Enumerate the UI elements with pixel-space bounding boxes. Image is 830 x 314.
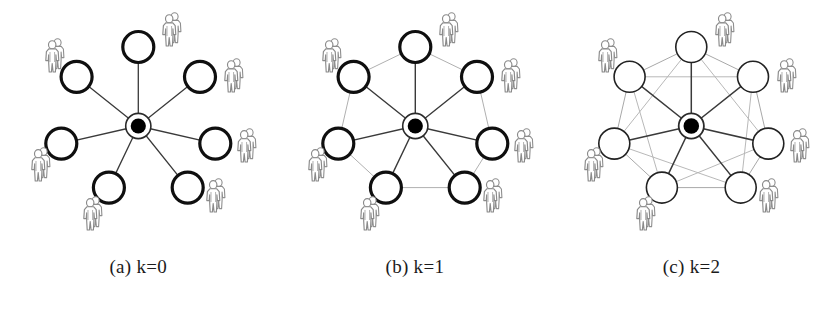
- person-icon-upper-right: [778, 59, 796, 92]
- node-upper-left: [338, 61, 369, 92]
- node-lower-right: [449, 172, 480, 203]
- person-icon-lower-right: [207, 179, 225, 212]
- person-icon-lower-left: [360, 197, 378, 230]
- panel-b: (b) k=1: [277, 0, 554, 314]
- person-icon-lower-left: [84, 197, 102, 230]
- person-icon-upper-left: [322, 39, 340, 72]
- mesh-edge-lowerleft-upperleft: [630, 77, 662, 188]
- hub-node-c: [679, 113, 704, 138]
- person-icon-upper-right: [225, 59, 243, 92]
- star-ring-topology-k1-diagram: [277, 0, 554, 255]
- node-top: [399, 32, 430, 63]
- person-icon-upper-left: [46, 39, 64, 72]
- person-icon-top: [439, 13, 457, 46]
- node-top: [676, 32, 707, 63]
- node-right: [753, 128, 784, 159]
- hub-node-b: [402, 113, 427, 138]
- node-upper-right: [184, 61, 215, 92]
- panel-c-canvas: [553, 0, 830, 255]
- node-left: [599, 128, 630, 159]
- node-lower-right: [172, 172, 203, 203]
- person-icon-top: [163, 13, 181, 46]
- person-icon-top: [716, 13, 734, 46]
- person-icon-right: [791, 129, 809, 162]
- panel-a-caption: (a) k=0: [109, 257, 167, 276]
- node-upper-right: [461, 61, 492, 92]
- panel-a: (a) k=0: [0, 0, 277, 314]
- node-lower-right: [725, 172, 756, 203]
- node-left: [322, 128, 353, 159]
- person-icon-right: [238, 129, 256, 162]
- panel-c-caption: (c) k=2: [663, 257, 721, 276]
- node-upper-left: [614, 61, 645, 92]
- person-icon-lower-right: [483, 179, 501, 212]
- node-right: [476, 128, 507, 159]
- star-topology-k0-diagram: [0, 0, 277, 255]
- person-icon-left: [585, 148, 603, 181]
- person-icon-lower-right: [760, 179, 778, 212]
- panel-b-caption: (b) k=1: [386, 257, 445, 276]
- panel-a-canvas: [0, 0, 277, 255]
- node-upper-right: [738, 61, 769, 92]
- person-icon-right: [514, 129, 532, 162]
- node-top: [123, 32, 154, 63]
- person-icon-left: [308, 148, 326, 181]
- node-left: [46, 128, 77, 159]
- panel-c: (c) k=2: [553, 0, 830, 314]
- hub-node-a: [126, 113, 151, 138]
- person-icon-upper-right: [501, 59, 519, 92]
- person-icon-upper-left: [599, 39, 617, 72]
- node-upper-left: [61, 61, 92, 92]
- person-icon-lower-left: [637, 197, 655, 230]
- panel-b-canvas: [277, 0, 554, 255]
- person-icon-left: [32, 148, 50, 181]
- node-right: [200, 128, 231, 159]
- figure-row: (a) k=0: [0, 0, 830, 314]
- star-mesh-topology-k2-diagram: [553, 0, 830, 255]
